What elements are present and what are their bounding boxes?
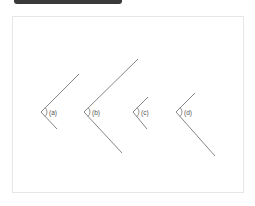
- angle-figure: (c): [133, 97, 149, 129]
- angles-diagram: (a)(b)(c)(d): [0, 0, 255, 206]
- angle-figure: (a): [41, 74, 79, 129]
- lower-ray: [176, 112, 215, 156]
- upper-ray: [84, 59, 138, 112]
- angle-label: (d): [184, 109, 192, 117]
- angle-label: (a): [49, 109, 57, 117]
- angle-arc: [88, 108, 90, 117]
- angle-figure: (b): [84, 59, 138, 153]
- angle-label: (b): [92, 109, 100, 117]
- angle-arc: [137, 108, 139, 117]
- angle-arc: [180, 108, 182, 117]
- angle-label: (c): [141, 109, 149, 117]
- angle-arc: [45, 108, 47, 117]
- angle-figure: (d): [176, 93, 215, 156]
- lower-ray: [84, 112, 122, 153]
- upper-ray: [41, 74, 79, 112]
